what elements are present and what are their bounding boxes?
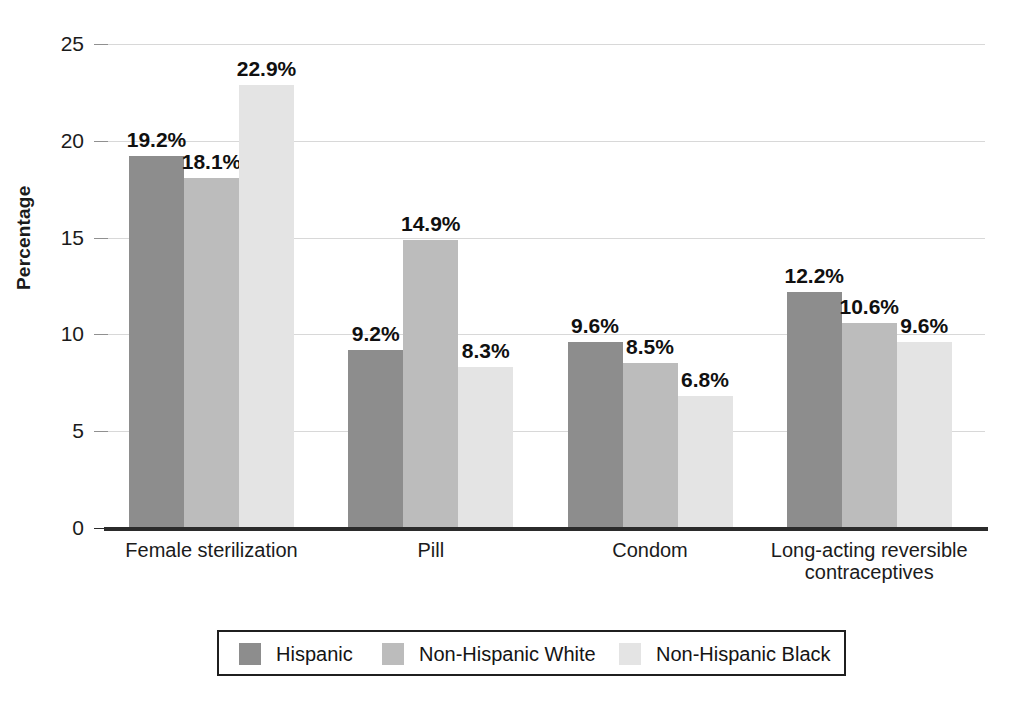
gridline: [108, 44, 985, 45]
x-axis-category-label-line: contraceptives: [719, 561, 1019, 583]
legend-item[interactable]: Hispanic: [239, 641, 353, 667]
y-axis-tick-label: 25: [38, 33, 84, 54]
bar-chart-figure: Percentage 0510152025 19.2%9.2%9.6%12.2%…: [0, 0, 1029, 707]
legend-label: Non-Hispanic White: [419, 644, 596, 664]
bar: [184, 178, 239, 528]
bar-value-label: 8.3%: [449, 340, 522, 361]
y-axis-tick-mark: [94, 238, 108, 239]
bar-value-label: 14.9%: [394, 213, 467, 234]
x-axis-line: [104, 527, 988, 531]
bar: [239, 85, 294, 528]
legend-swatch-icon: [239, 643, 261, 665]
bar-value-label: 9.6%: [888, 315, 961, 336]
y-axis-tick-label: 15: [38, 227, 84, 248]
y-axis-tick-mark: [94, 334, 108, 335]
bar-value-label: 8.5%: [614, 336, 687, 357]
legend-label: Hispanic: [276, 644, 353, 664]
legend-label: Non-Hispanic Black: [656, 644, 831, 664]
y-axis-tick-mark: [94, 431, 108, 432]
bar-value-label: 18.1%: [175, 151, 248, 172]
x-axis-category-label-line: Long-acting reversible: [719, 539, 1019, 561]
bar-value-label: 22.9%: [230, 58, 303, 79]
bar: [842, 323, 897, 528]
bar: [129, 156, 184, 528]
bar: [897, 342, 952, 528]
bar-value-label: 12.2%: [778, 265, 851, 286]
bar-value-label: 9.2%: [339, 323, 412, 344]
legend-swatch-icon: [382, 643, 404, 665]
legend: HispanicNon-Hispanic WhiteNon-Hispanic B…: [217, 630, 846, 676]
legend-item[interactable]: Non-Hispanic Black: [619, 641, 831, 667]
y-axis-tick-label: 0: [38, 517, 84, 538]
y-axis-tick-label: 20: [38, 130, 84, 151]
plot-area: 19.2%9.2%9.6%12.2%18.1%14.9%8.5%10.6%22.…: [108, 44, 985, 528]
legend-swatch-icon: [619, 643, 641, 665]
bar: [568, 342, 623, 528]
bar-value-label: 6.8%: [669, 369, 742, 390]
bar: [403, 240, 458, 528]
bar-value-label: 9.6%: [559, 315, 632, 336]
bar-value-label: 19.2%: [120, 129, 193, 150]
bar: [787, 292, 842, 528]
bar: [348, 350, 403, 528]
bar: [678, 396, 733, 528]
x-axis-category-label: Long-acting reversiblecontraceptives: [719, 539, 1019, 584]
bar: [458, 367, 513, 528]
y-axis-tick-mark: [94, 141, 108, 142]
y-axis-tick-label: 5: [38, 420, 84, 441]
y-axis-tick-label: 10: [38, 323, 84, 344]
legend-item[interactable]: Non-Hispanic White: [382, 641, 596, 667]
bar-value-label: 10.6%: [833, 296, 906, 317]
y-axis-tick-mark: [94, 44, 108, 45]
